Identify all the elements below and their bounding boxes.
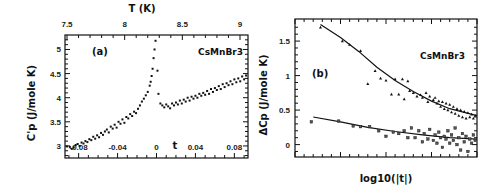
- data-point: [181, 102, 183, 104]
- chart-a-ytick-label: 5: [57, 45, 62, 54]
- data-point-square: [443, 135, 446, 138]
- data-point-triangle: [379, 77, 382, 80]
- data-point: [200, 95, 202, 97]
- data-point: [106, 129, 108, 131]
- data-point-triangle: [463, 110, 466, 113]
- data-point-square: [352, 125, 355, 128]
- data-point-square: [310, 121, 313, 124]
- data-point-square: [470, 142, 473, 145]
- chart-a-ytick-label: 4.5: [50, 70, 62, 79]
- data-point: [82, 143, 84, 145]
- data-point: [245, 75, 247, 77]
- data-point-triangle: [374, 69, 377, 72]
- data-point: [212, 91, 214, 93]
- data-point: [198, 93, 200, 95]
- data-point: [165, 103, 167, 105]
- data-point-square: [441, 146, 444, 149]
- data-point: [196, 97, 198, 99]
- chart-a-top-xtick-label: 8.5: [177, 20, 189, 29]
- data-point: [108, 131, 110, 133]
- data-point: [156, 70, 158, 72]
- chart-b: 00.511.5 log10(|t|) ΔCp (J/mole K) (b) C…: [258, 19, 477, 185]
- data-point-square: [414, 136, 417, 139]
- chart-b-panel-label: (b): [312, 68, 328, 79]
- data-point-triangle: [394, 78, 397, 81]
- data-point: [214, 87, 216, 89]
- data-point: [229, 80, 231, 82]
- data-point: [100, 132, 102, 134]
- data-point: [110, 126, 112, 128]
- fit-curve: [321, 25, 478, 116]
- data-point: [66, 145, 68, 147]
- data-point-triangle: [454, 112, 457, 115]
- data-point-square: [447, 129, 450, 132]
- data-point: [210, 88, 212, 90]
- data-point: [147, 91, 149, 93]
- data-point-square: [439, 136, 442, 139]
- data-point: [235, 81, 237, 83]
- figure: -0.08-0.0400.040.087.588.5933.544.55 T (…: [0, 0, 496, 191]
- data-point: [112, 128, 114, 130]
- data-point-square: [337, 120, 340, 123]
- data-point: [224, 86, 226, 88]
- chart-b-ylabel: ΔCp (J/mole K): [258, 55, 269, 136]
- chart-a-xtick-label: -0.08: [70, 143, 89, 152]
- data-point-triangle: [450, 111, 453, 114]
- chart-b-ticks: 00.511.5: [279, 19, 477, 157]
- data-point: [96, 134, 98, 136]
- data-point: [222, 83, 224, 85]
- data-point-triangle: [403, 98, 406, 101]
- data-point-square: [474, 139, 477, 142]
- data-point: [143, 98, 145, 100]
- data-point-triangle: [448, 103, 451, 106]
- data-point: [157, 93, 159, 95]
- data-point: [137, 108, 139, 110]
- data-point: [228, 84, 230, 86]
- data-point: [133, 111, 135, 113]
- data-point: [86, 141, 88, 143]
- data-point-square: [436, 142, 439, 145]
- chart-a-ytick-label: 4: [57, 94, 62, 103]
- data-point-triangle: [445, 102, 448, 105]
- chart-a-annotation: CsMnBr3: [198, 47, 243, 57]
- data-point-triangle: [459, 109, 462, 112]
- data-point: [194, 95, 196, 97]
- data-point: [154, 48, 156, 50]
- data-point-triangle: [443, 107, 446, 110]
- data-point-square: [403, 129, 406, 132]
- data-point-square: [359, 125, 362, 128]
- data-point: [135, 112, 137, 114]
- data-point: [226, 82, 228, 84]
- data-point-triangle: [457, 114, 460, 117]
- data-point-square: [452, 139, 455, 142]
- chart-a-top-xtick-label: 9: [238, 20, 243, 29]
- data-point: [153, 57, 155, 59]
- data-point: [173, 104, 175, 106]
- data-point: [125, 116, 127, 118]
- data-point-triangle: [366, 82, 369, 85]
- data-point: [92, 136, 94, 138]
- data-point-square: [434, 134, 437, 137]
- chart-a-xtick-label: 0.04: [188, 143, 204, 152]
- data-point-square: [421, 141, 424, 144]
- data-point-triangle: [437, 100, 440, 103]
- chart-a: -0.08-0.0400.040.087.588.5933.544.55 T (…: [26, 3, 248, 158]
- data-point-triangle: [452, 105, 455, 108]
- data-point: [177, 103, 179, 105]
- chart-a-xtick-label: 0: [154, 143, 159, 152]
- chart-b-ytick-label: 0.5: [279, 106, 291, 115]
- chart-b-xlabel: log10(|t|): [360, 173, 413, 185]
- data-point: [206, 90, 208, 92]
- data-point: [77, 143, 79, 145]
- data-point: [98, 136, 100, 138]
- data-point-square: [456, 143, 459, 146]
- data-point-triangle: [401, 78, 404, 81]
- data-point-square: [472, 134, 475, 137]
- data-point: [233, 78, 235, 80]
- data-point: [152, 68, 154, 70]
- data-point-triangle: [397, 93, 400, 96]
- data-point: [163, 106, 165, 108]
- data-point: [71, 148, 73, 150]
- chart-b-ytick-label: 0: [286, 141, 291, 150]
- data-point-triangle: [468, 115, 471, 118]
